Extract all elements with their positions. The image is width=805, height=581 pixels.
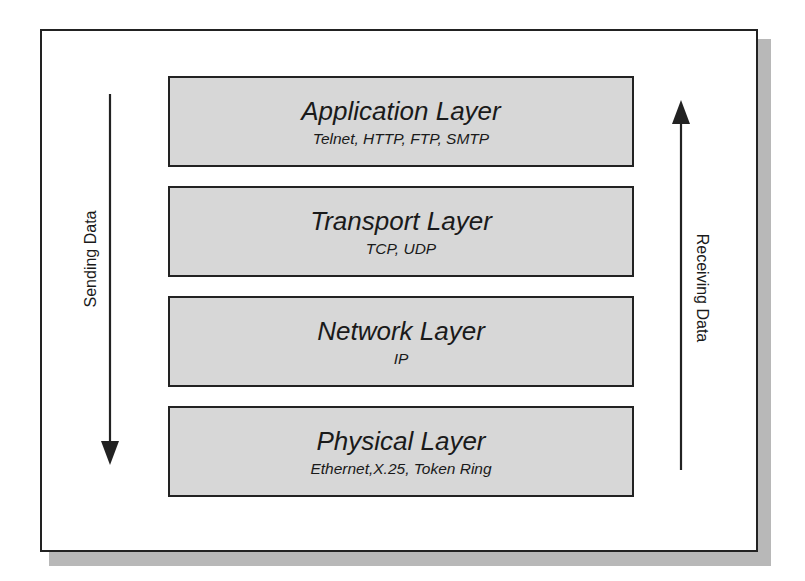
sending-data-label: Sending Data <box>82 211 100 308</box>
receiving-arrow-head <box>672 100 690 124</box>
receiving-arrow-up-icon <box>672 100 690 470</box>
receiving-data-label: Receiving Data <box>693 234 711 343</box>
arrows-layer <box>0 0 805 581</box>
sending-arrow-head <box>101 441 119 465</box>
sending-arrow-down-icon <box>101 94 119 465</box>
